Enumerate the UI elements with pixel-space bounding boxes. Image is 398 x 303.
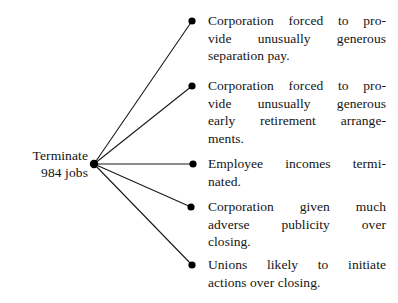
branch-1-line-3: separation pay. — [208, 47, 386, 65]
branch-2-line-1: Corporation forced to pro- — [208, 77, 386, 95]
branch-2-line-2: vide unusually generous — [208, 95, 386, 113]
branch-3-line-2: nated. — [208, 173, 386, 191]
branch-1-line-2: vide unusually generous — [208, 30, 386, 48]
branch-text-2: Corporation forced to pro-vide unusually… — [208, 77, 386, 147]
branch-text-4: Corporation given muchadverse publicity … — [208, 198, 386, 251]
bullet-branch-2 — [188, 82, 195, 89]
edge-to-branch-2 — [94, 86, 192, 164]
root-label-line-1: Terminate — [0, 147, 88, 164]
branch-5-line-1: Unions likely to initiate — [208, 256, 386, 274]
branch-2-line-3: early retirement arrange- — [208, 112, 386, 130]
edge-to-branch-5 — [94, 164, 192, 265]
bullet-branch-4 — [187, 203, 194, 210]
root-node-label: Terminate 984 jobs — [0, 147, 88, 181]
branch-text-3: Employee incomes termi-nated. — [208, 155, 386, 190]
edge-group — [94, 21, 193, 265]
branch-2-line-4: ments. — [208, 130, 386, 148]
edge-to-branch-1 — [94, 21, 192, 164]
branch-4-line-3: closing. — [208, 233, 386, 251]
branch-4-line-1: Corporation given much — [208, 198, 386, 216]
branch-3-line-1: Employee incomes termi- — [208, 155, 386, 173]
edge-to-branch-4 — [94, 164, 191, 207]
bullet-branch-3 — [189, 160, 196, 167]
branch-text-5: Unions likely to initiateactions over cl… — [208, 256, 386, 291]
bullet-branch-5 — [188, 261, 195, 268]
root-label-line-2: 984 jobs — [0, 164, 88, 181]
bullet-branch-1 — [188, 17, 195, 24]
branch-1-line-1: Corporation forced to pro- — [208, 12, 386, 30]
branch-5-line-2: actions over closing. — [208, 274, 386, 292]
branch-text-1: Corporation forced to pro-vide unusually… — [208, 12, 386, 65]
branch-4-line-2: adverse publicity over — [208, 216, 386, 234]
consequence-fan-diagram: Terminate 984 jobs Corporation forced to… — [0, 0, 398, 303]
root-hub-group — [90, 160, 98, 168]
bullet-group — [187, 17, 196, 268]
root-hub-node — [90, 160, 98, 168]
